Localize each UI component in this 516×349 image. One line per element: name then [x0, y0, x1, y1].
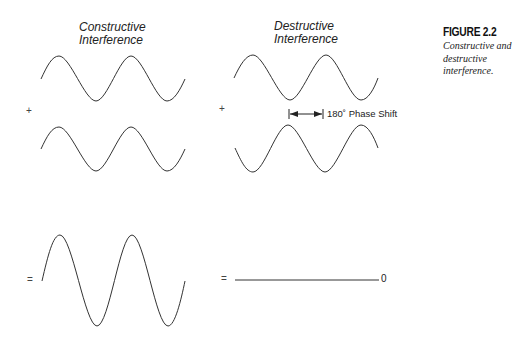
constructive-equals-sign: = [27, 274, 33, 285]
interference-figure: Constructive Interference Destructive In… [0, 0, 516, 349]
constructive-sum-wave [42, 235, 185, 326]
phase-shift-arrow [289, 109, 323, 119]
figure-number: FIGURE 2.2 [443, 25, 505, 39]
destructive-plus-sign: + [219, 103, 225, 114]
constructive-title: Constructive Interference [79, 21, 146, 47]
phase-shift-label: 180˚ Phase Shift [327, 108, 397, 119]
constructive-wave-1 [41, 56, 185, 101]
constructive-title-line2: Interference [79, 34, 146, 47]
destructive-title-line2: Interference [274, 33, 338, 46]
waveform-graphics [0, 0, 516, 349]
zero-result-label: 0 [381, 273, 387, 284]
figure-caption-text: Constructive and destructive interferenc… [443, 40, 516, 78]
destructive-equals-sign: = [221, 273, 227, 284]
destructive-title: Destructive Interference [274, 20, 338, 46]
constructive-plus-sign: + [26, 105, 32, 116]
constructive-wave-2 [41, 127, 185, 171]
figure-caption: FIGURE 2.2 Constructive and destructive … [443, 25, 516, 78]
destructive-wave-2 [235, 125, 378, 172]
destructive-wave-1 [234, 55, 378, 100]
